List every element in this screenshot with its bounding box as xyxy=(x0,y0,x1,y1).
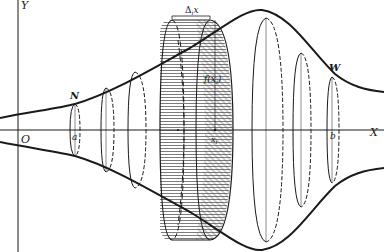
solid-of-revolution-diagram: Y X O N W a b xi f(xi) Δix xyxy=(0,0,384,252)
point-b-label: b xyxy=(330,131,336,141)
fxi-label: f(xi) xyxy=(203,74,222,85)
delta-x-label: Δix xyxy=(185,5,199,16)
y-axis-label: Y xyxy=(21,0,30,12)
point-a-label: a xyxy=(72,132,77,142)
point-n-label: N xyxy=(69,90,80,101)
x-axis-label: X xyxy=(369,126,379,139)
delta-bracket xyxy=(172,16,210,19)
origin-label: O xyxy=(21,133,30,146)
point-w-label: W xyxy=(329,62,342,73)
disc-element xyxy=(160,20,233,241)
